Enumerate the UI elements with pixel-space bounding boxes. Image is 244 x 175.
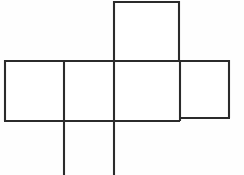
face-top-flap-square — [113, 1, 180, 60]
cube-net-drawing — [0, 0, 244, 175]
face-row-square-4-rightmost — [180, 60, 230, 118]
face-row-square-3 — [114, 60, 180, 121]
face-row-square-2 — [64, 60, 114, 121]
cube-net-figure — [0, 0, 244, 175]
face-row-square-1-leftmost — [4, 60, 64, 121]
